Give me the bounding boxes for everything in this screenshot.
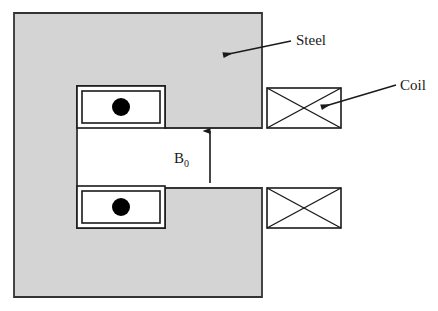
pole-piece-upper-dot — [112, 98, 130, 116]
steel-core-body — [14, 13, 262, 297]
coil-label: Coil — [400, 77, 426, 93]
air-gap-field-arrow-group: B0 — [174, 131, 210, 183]
b0-field-label-base: B — [174, 150, 184, 166]
steel-core-group — [14, 13, 262, 297]
b0-field-label-subscript: 0 — [184, 158, 189, 169]
pole-piece-lower — [77, 186, 165, 228]
pole-piece-upper — [77, 86, 165, 128]
diagram-root: B0 Steel Coil — [0, 0, 438, 311]
coil-lower — [267, 188, 341, 228]
steel-label: Steel — [296, 32, 326, 48]
b0-field-label: B0 — [174, 150, 189, 169]
pole-piece-lower-dot — [112, 198, 130, 216]
coil-upper — [267, 88, 341, 128]
magnetic-core-figure: B0 Steel Coil — [0, 0, 438, 311]
